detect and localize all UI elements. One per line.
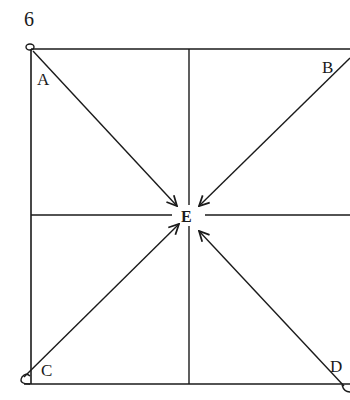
label-c: C <box>41 361 52 380</box>
diagram-canvas: 6 A B C D E <box>0 0 350 400</box>
label-d: D <box>330 357 342 376</box>
arrow-c-to-e <box>24 224 179 377</box>
arrow-b-to-e <box>199 58 350 206</box>
label-e-center: E <box>181 208 192 225</box>
label-a: A <box>37 70 50 89</box>
arrow-d-to-e <box>199 231 344 386</box>
corner-loop-a <box>26 44 34 50</box>
figure-number: 6 <box>24 8 34 30</box>
label-b: B <box>322 58 333 77</box>
arrow-a-to-e <box>33 51 177 206</box>
